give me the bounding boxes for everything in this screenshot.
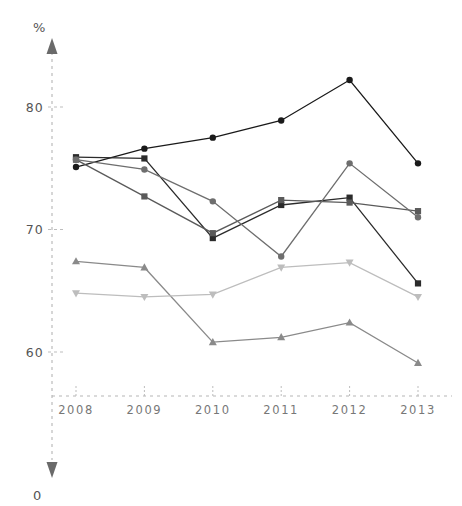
chart-canvas: % 0 80 70 60 2008 2009 2010 2011 2012 20…: [0, 0, 462, 506]
xtick-label-2013: 2013: [400, 403, 436, 417]
datapoint-series-4-2011: [278, 253, 284, 259]
series-group-series-3: [73, 157, 421, 237]
xtick-label-2011: 2011: [263, 403, 299, 417]
y-axis-up-arrow-icon: [47, 38, 58, 54]
y-axis-zero-label: 0: [33, 488, 42, 503]
datapoint-series-1-2012: [346, 77, 352, 83]
datapoint-series-4-2010: [210, 198, 216, 204]
line-series-1: [76, 80, 418, 167]
line-series-4: [76, 160, 418, 257]
datapoint-series-1-2009: [141, 145, 147, 151]
series-layer: [72, 77, 422, 366]
ytick-label-80: 80: [26, 100, 44, 115]
xtick-label-2008: 2008: [58, 403, 94, 417]
y-axis-down-arrow-icon: [47, 462, 58, 478]
datapoint-series-4-2008: [73, 156, 79, 162]
datapoint-series-4-2009: [141, 166, 147, 172]
line-chart: % 0 80 70 60 2008 2009 2010 2011 2012 20…: [0, 0, 462, 506]
datapoint-series-6-2013: [414, 294, 422, 301]
datapoint-series-1-2011: [278, 117, 284, 123]
datapoint-series-2-2009: [141, 155, 147, 161]
xtick-label-2010: 2010: [195, 403, 231, 417]
datapoint-series-5-2012: [346, 318, 354, 325]
datapoint-series-6-2009: [140, 294, 148, 301]
datapoint-series-3-2012: [347, 199, 353, 205]
series-group-series-2: [73, 154, 421, 286]
datapoint-series-3-2011: [278, 197, 284, 203]
line-series-5: [76, 261, 418, 363]
datapoint-series-3-2013: [415, 208, 421, 214]
datapoint-series-3-2010: [210, 230, 216, 236]
datapoint-series-4-2012: [346, 160, 352, 166]
ytick-label-60: 60: [26, 345, 44, 360]
ytick-label-70: 70: [26, 222, 44, 237]
y-axis-unit-label: %: [33, 20, 46, 35]
series-group-series-5: [72, 257, 422, 366]
datapoint-series-3-2009: [141, 193, 147, 199]
datapoint-series-2-2013: [415, 280, 421, 286]
line-series-6: [76, 263, 418, 297]
datapoint-series-5-2008: [72, 257, 80, 264]
datapoint-series-1-2008: [73, 164, 79, 170]
datapoint-series-4-2013: [415, 214, 421, 220]
datapoint-series-5-2013: [414, 359, 422, 366]
xtick-label-2009: 2009: [127, 403, 163, 417]
datapoint-series-1-2010: [210, 134, 216, 140]
xtick-label-2012: 2012: [332, 403, 368, 417]
datapoint-series-1-2013: [415, 160, 421, 166]
series-group-series-1: [73, 77, 421, 170]
series-group-series-4: [73, 156, 421, 259]
